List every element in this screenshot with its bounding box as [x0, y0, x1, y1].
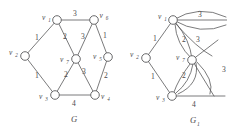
- g1-weight-right: 3: [222, 65, 226, 74]
- g1-curve-v1-bottom: [173, 20, 226, 29]
- edge-v1-v2: [25, 20, 57, 56]
- vertex-sub-v1: 1: [48, 17, 51, 23]
- edge-v2-v3: [25, 56, 55, 95]
- g1-vertex-v7: [188, 56, 197, 65]
- g1-vertex-v3: [168, 92, 177, 101]
- g1-edge-v1-v2: [146, 20, 173, 58]
- vertex-label-v7: v: [60, 55, 64, 64]
- weight-v6-v7: 3: [81, 32, 85, 41]
- vertex-sub-v3: 3: [45, 96, 48, 102]
- g1-curve-v7-v4b: [197, 62, 211, 94]
- vertex-label-v2: v: [9, 48, 13, 57]
- graph-G1: v 1 v 2 v 7 v 3 3 1 2 3 1 2 4 3 G 1: [130, 10, 227, 127]
- g1-vertex-label-v1: v: [158, 12, 162, 21]
- weight-v7-v3: 2: [64, 70, 68, 79]
- graph-figure: v 1 v 6 v 2 v 7 v 5 v 3 v 4 3 1 2 3 1 1 …: [0, 0, 227, 130]
- vertex-v1: [53, 16, 62, 25]
- vertex-v2: [21, 52, 30, 61]
- g1-weight-v2-v3: 1: [151, 72, 155, 81]
- g1-weight-v1-v7: 2: [182, 35, 186, 44]
- g1-vertex-sub-v3: 3: [162, 97, 165, 103]
- vertex-sub-v2: 2: [15, 52, 18, 58]
- g1-vertex-label-v7: v: [176, 53, 180, 62]
- weight-v6-v5: 1: [103, 31, 107, 40]
- g1-vertex-label-v2: v: [130, 50, 134, 59]
- g1-weight-v1-v2: 1: [153, 34, 157, 43]
- g1-vertex-v2: [142, 54, 151, 63]
- vertex-label-v1: v: [42, 13, 46, 22]
- graph-G: v 1 v 6 v 2 v 7 v 5 v 3 v 4 3 1 2 3 1 1 …: [9, 9, 112, 124]
- vertex-sub-v4: 4: [107, 96, 110, 102]
- g1-weight-v7-v3: 2: [182, 71, 186, 80]
- g1-vertex-sub-v7: 7: [182, 57, 185, 63]
- weight-v2-v3: 1: [35, 71, 39, 80]
- weight-v1-v6: 3: [73, 9, 77, 18]
- weight-v7-v4: 3: [82, 67, 86, 76]
- g1-weight-top: 3: [198, 10, 202, 19]
- g1-weight-v1-v7b: 3: [196, 35, 200, 44]
- g1-edge-v2-v3: [146, 58, 172, 96]
- g1-vertex-sub-v2: 2: [136, 54, 139, 60]
- caption-G: G: [71, 114, 78, 124]
- vertex-sub-v6: 6: [106, 15, 109, 21]
- figure-container: v 1 v 6 v 2 v 7 v 5 v 3 v 4 3 1 2 3 1 1 …: [0, 0, 227, 130]
- vertex-v5: [104, 53, 113, 62]
- edge-v6-v7: [76, 20, 94, 59]
- g1-vertex-sub-v1: 1: [164, 16, 167, 22]
- vertex-v7: [72, 55, 81, 64]
- weight-v3-v4: 4: [72, 99, 76, 108]
- g1-weight-bottom: 4: [192, 100, 196, 109]
- vertex-sub-v5: 5: [99, 56, 102, 62]
- vertex-label-v6: v: [100, 11, 104, 20]
- vertex-v6: [90, 16, 99, 25]
- vertex-v3: [51, 91, 60, 100]
- vertex-label-v3: v: [39, 92, 43, 101]
- caption-G1-sub: 1: [197, 121, 200, 127]
- weight-v5-v4: 2: [104, 71, 108, 80]
- g1-vertex-label-v3: v: [156, 93, 160, 102]
- edge-v7-v4: [76, 59, 95, 95]
- g1-vertex-v1: [169, 16, 178, 25]
- vertex-label-v5: v: [93, 52, 97, 61]
- vertex-sub-v7: 7: [66, 59, 69, 65]
- weight-v1-v7: 2: [63, 32, 67, 41]
- vertex-v4: [91, 91, 100, 100]
- vertex-label-v4: v: [101, 92, 105, 101]
- caption-G1: G: [190, 115, 197, 125]
- weight-v1-v2: 1: [35, 33, 39, 42]
